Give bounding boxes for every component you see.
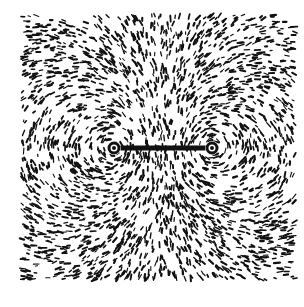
iron-filing xyxy=(26,270,30,271)
iron-filing xyxy=(270,218,272,219)
iron-filing xyxy=(201,130,206,133)
iron-filing xyxy=(189,73,191,76)
iron-filing xyxy=(196,16,200,20)
iron-filing xyxy=(233,141,234,144)
iron-filing xyxy=(102,261,107,263)
iron-filing xyxy=(43,252,47,253)
iron-filing xyxy=(246,143,247,148)
iron-filing xyxy=(142,86,145,89)
iron-filing xyxy=(214,156,219,158)
iron-filing xyxy=(131,213,134,217)
iron-filing xyxy=(285,68,289,69)
iron-filing xyxy=(238,62,242,63)
iron-filing xyxy=(23,195,26,197)
iron-filing xyxy=(284,160,285,163)
iron-filing xyxy=(31,230,34,231)
iron-filing xyxy=(95,260,97,262)
iron-filing xyxy=(25,46,28,47)
iron-filing xyxy=(121,184,124,186)
iron-filing xyxy=(270,26,274,27)
iron-filing xyxy=(157,257,158,262)
iron-filing xyxy=(197,273,199,276)
iron-filing xyxy=(137,243,140,247)
iron-filing xyxy=(210,86,214,89)
iron-filing xyxy=(32,91,35,92)
iron-filing xyxy=(176,58,177,62)
iron-filing xyxy=(71,250,75,252)
iron-filing xyxy=(204,240,207,242)
iron-filing xyxy=(284,69,286,70)
iron-filing xyxy=(223,133,225,135)
iron-filing xyxy=(83,75,86,76)
iron-filing xyxy=(200,206,203,210)
iron-filing xyxy=(255,72,261,73)
iron-filing xyxy=(184,155,185,159)
iron-filing xyxy=(193,87,195,89)
iron-filing xyxy=(98,57,102,58)
iron-filing xyxy=(124,66,127,68)
iron-filing xyxy=(279,195,283,198)
iron-filing xyxy=(236,18,237,20)
iron-filing xyxy=(74,72,77,73)
iron-filing xyxy=(106,15,109,18)
iron-filing xyxy=(62,217,68,218)
iron-filing xyxy=(172,21,174,25)
iron-filing xyxy=(52,60,56,61)
iron-filing xyxy=(266,146,267,149)
iron-filing xyxy=(211,200,214,201)
iron-filing xyxy=(21,203,23,205)
iron-filing xyxy=(48,223,51,224)
iron-filing xyxy=(148,270,149,275)
iron-filing xyxy=(97,24,99,26)
iron-filing xyxy=(131,223,134,227)
field-pattern-canvas xyxy=(0,0,304,307)
iron-filing xyxy=(35,101,37,103)
iron-filing xyxy=(198,87,202,90)
iron-filing xyxy=(244,189,247,190)
iron-filing xyxy=(282,45,287,46)
iron-filing xyxy=(201,271,203,274)
iron-filing xyxy=(51,39,54,40)
iron-filing xyxy=(270,148,271,151)
iron-filing xyxy=(73,266,75,268)
iron-filing xyxy=(165,103,166,108)
iron-filing xyxy=(36,124,37,130)
iron-filing xyxy=(20,238,24,239)
iron-filing xyxy=(263,142,264,146)
wire-pole-center xyxy=(112,146,116,150)
iron-filing xyxy=(182,153,183,157)
iron-filing xyxy=(120,273,124,276)
iron-filing xyxy=(252,168,254,170)
iron-filing xyxy=(187,96,188,101)
iron-filing xyxy=(250,159,251,163)
iron-filing xyxy=(105,71,108,74)
iron-filing xyxy=(123,230,125,235)
iron-filing xyxy=(87,178,91,180)
iron-filing xyxy=(236,151,237,154)
iron-filing xyxy=(120,183,122,184)
iron-filing xyxy=(95,68,98,69)
iron-filing xyxy=(66,25,72,27)
iron-filing xyxy=(120,177,125,180)
iron-filing xyxy=(245,38,247,39)
iron-filing xyxy=(252,115,256,119)
iron-filing xyxy=(274,145,275,148)
iron-filing xyxy=(95,78,100,79)
iron-filing xyxy=(153,59,156,64)
iron-filing xyxy=(134,216,136,220)
iron-filing xyxy=(212,135,215,136)
iron-filing xyxy=(28,250,30,251)
iron-filing xyxy=(189,216,190,218)
wire-pole-center xyxy=(210,146,214,150)
iron-filing xyxy=(274,100,277,102)
iron-filing xyxy=(125,177,128,182)
iron-filing xyxy=(184,268,186,271)
iron-filing xyxy=(190,260,191,266)
iron-filing xyxy=(94,16,96,17)
iron-filing xyxy=(275,78,277,79)
iron-filing xyxy=(55,246,60,247)
iron-filing xyxy=(268,168,270,171)
iron-filing xyxy=(154,43,155,46)
iron-filing xyxy=(251,109,254,110)
iron-filing xyxy=(163,194,164,199)
